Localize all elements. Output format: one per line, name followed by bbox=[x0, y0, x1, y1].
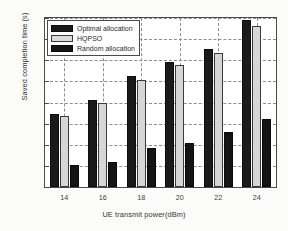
bar bbox=[147, 148, 156, 187]
bar bbox=[88, 100, 97, 187]
bar bbox=[60, 116, 69, 187]
x-axis-title: UE transmit power(dBm) bbox=[44, 210, 244, 219]
x-tick-label: 22 bbox=[198, 193, 238, 202]
legend-swatch-icon bbox=[51, 35, 73, 42]
x-tick-label: 16 bbox=[83, 193, 123, 202]
x-tick-label: 18 bbox=[121, 193, 161, 202]
x-tick-label: 20 bbox=[160, 193, 200, 202]
bar bbox=[204, 49, 213, 187]
bar bbox=[224, 132, 233, 187]
bar bbox=[185, 143, 194, 187]
bar bbox=[165, 62, 174, 187]
legend-label: Random allocation bbox=[77, 44, 135, 53]
bar bbox=[70, 165, 79, 187]
bar bbox=[50, 114, 59, 187]
y-axis-title: Saved completion time (s) bbox=[20, 0, 29, 127]
figure: Saved completion time (s) UE transmit po… bbox=[0, 0, 288, 231]
legend: Optimal allocation HQPSO Random allocati… bbox=[47, 20, 140, 56]
legend-swatch-icon bbox=[51, 45, 73, 52]
legend-label: Optimal allocation bbox=[77, 24, 133, 33]
legend-item-random-allocation[interactable]: Random allocation bbox=[51, 43, 135, 53]
legend-item-hqpso[interactable]: HQPSO bbox=[51, 33, 135, 43]
x-tick-label: 14 bbox=[44, 193, 84, 202]
legend-label: HQPSO bbox=[77, 34, 102, 43]
bar bbox=[127, 76, 136, 187]
legend-item-optimal-allocation[interactable]: Optimal allocation bbox=[51, 23, 135, 33]
bar bbox=[262, 119, 271, 187]
bar bbox=[214, 53, 223, 187]
bar bbox=[242, 20, 251, 187]
bar bbox=[137, 80, 146, 187]
bar bbox=[98, 103, 107, 187]
bar bbox=[252, 26, 261, 187]
y-tick-mark bbox=[45, 187, 49, 188]
bar bbox=[175, 65, 184, 187]
legend-swatch-icon bbox=[51, 25, 73, 32]
bar bbox=[108, 162, 117, 187]
x-tick-label: 24 bbox=[237, 193, 277, 202]
